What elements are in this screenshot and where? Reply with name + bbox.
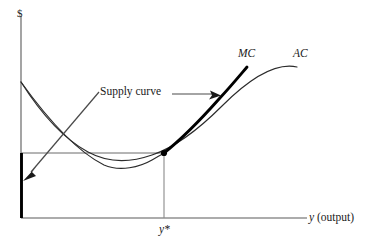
equilibrium-point-marker [161, 150, 167, 156]
ac-curve [21, 66, 297, 160]
figure-root: $ MC AC Supply curve y* y (output) [0, 0, 373, 251]
supply-curve-leader-left [31, 92, 99, 172]
supply-curve-arrowhead-left [23, 167, 36, 181]
mc-curve-thick-supply-segment [164, 67, 247, 153]
cost-curves-diagram [0, 0, 373, 251]
mc-curve-thin-segment [21, 82, 164, 168]
